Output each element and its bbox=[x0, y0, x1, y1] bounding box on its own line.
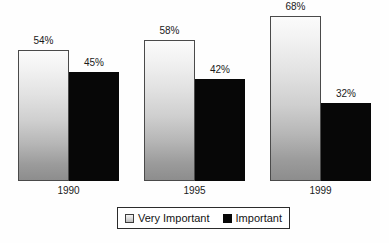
bar-value-label: 32% bbox=[336, 88, 356, 100]
legend-label-important: Important bbox=[236, 212, 282, 225]
legend-label-very-important: Very Important bbox=[138, 212, 210, 225]
bars-row: 58% 42% bbox=[144, 0, 245, 181]
bars-row: 68% 32% bbox=[270, 0, 371, 181]
bar-1999-very-important[interactable]: 68% bbox=[270, 16, 321, 181]
bar-1990-important[interactable]: 45% bbox=[69, 72, 119, 181]
bar-value-label: 68% bbox=[285, 1, 305, 13]
bar-value-label: 54% bbox=[33, 35, 53, 47]
plot-area: 54% 45% 1990 58% 42% 1995 bbox=[0, 0, 389, 182]
bar-chart: 54% 45% 1990 58% 42% 1995 bbox=[0, 0, 389, 243]
bar-group-1995: 58% 42% 1995 bbox=[144, 0, 245, 182]
bar-1990-very-important[interactable]: 54% bbox=[18, 50, 69, 181]
bar-value-label: 45% bbox=[84, 57, 104, 69]
bar-group-1990: 54% 45% 1990 bbox=[18, 0, 119, 182]
bar-1995-very-important[interactable]: 58% bbox=[144, 40, 195, 181]
chart-legend: Very Important Important bbox=[117, 207, 290, 229]
category-label-1995: 1995 bbox=[144, 184, 245, 197]
legend-item-important[interactable]: Important bbox=[223, 212, 282, 225]
bar-value-label: 42% bbox=[210, 64, 230, 76]
legend-item-very-important[interactable]: Very Important bbox=[125, 212, 210, 225]
bar-1999-important[interactable]: 32% bbox=[321, 103, 371, 181]
bar-value-label: 58% bbox=[159, 25, 179, 37]
category-label-1999: 1999 bbox=[270, 184, 371, 197]
bar-group-1999: 68% 32% 1999 bbox=[270, 0, 371, 182]
bar-1995-important[interactable]: 42% bbox=[195, 79, 245, 181]
category-label-1990: 1990 bbox=[18, 184, 119, 197]
important-swatch-icon bbox=[223, 214, 232, 223]
very-important-swatch-icon bbox=[125, 214, 134, 223]
bars-row: 54% 45% bbox=[18, 0, 119, 181]
